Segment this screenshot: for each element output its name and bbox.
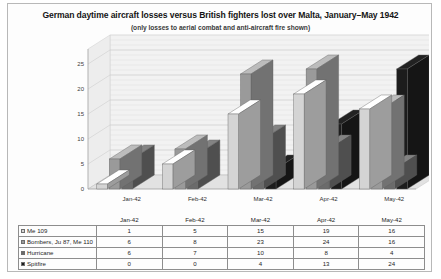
- x-tick-label-0: Jan-42: [123, 196, 142, 202]
- table-cell: 6: [97, 237, 163, 248]
- table-row-label-2: Hurricane: [19, 248, 97, 259]
- table-corner-cell: [19, 215, 97, 226]
- table-row: Hurricane671084: [19, 248, 425, 259]
- bar-Apr-42-Me-109: [294, 80, 327, 189]
- legend-swatch-icon: [21, 240, 25, 244]
- table-cell: 23: [228, 237, 294, 248]
- table-cell: 24: [359, 259, 425, 270]
- legend-swatch-icon: [21, 262, 25, 266]
- legend-swatch-icon: [21, 251, 25, 255]
- table-row-label-0: Me 109: [19, 226, 97, 237]
- y-tick-label-1: 5: [81, 161, 85, 167]
- table-header-row: Jan-42Feb-42Mar-42Apr-42May-42: [19, 215, 425, 226]
- table-header-0: Jan-42: [97, 215, 163, 226]
- chart-data-table: Jan-42Feb-42Mar-42Apr-42May-42 Me 109151…: [18, 215, 424, 270]
- bar-May-42-Me-109: [359, 95, 392, 189]
- table-row: Me 10915151916: [19, 226, 425, 237]
- y-tick-label-2: 10: [77, 136, 84, 142]
- data-table: Jan-42Feb-42Mar-42Apr-42May-42 Me 109151…: [18, 215, 425, 270]
- table-cell: 19: [293, 226, 359, 237]
- table-cell: 0: [162, 259, 228, 270]
- table-row-label-text: Bombers, Ju 87, Me 110: [27, 238, 93, 245]
- table-cell: 8: [162, 237, 228, 248]
- table-cell: 0: [97, 259, 163, 270]
- bar-Mar-42-Me-109: [228, 100, 261, 189]
- table-header-4: May-42: [359, 215, 425, 226]
- table-header-3: Apr-42: [293, 215, 359, 226]
- table-cell: 6: [97, 248, 163, 259]
- x-tick-label-4: May-42: [384, 196, 405, 202]
- table-cell: 13: [293, 259, 359, 270]
- table-cell: 4: [228, 259, 294, 270]
- table-body: Me 10915151916Bombers, Ju 87, Me 1106823…: [19, 226, 425, 270]
- y-tick-label-0: 0: [81, 186, 85, 192]
- table-row-label-text: Me 109: [27, 227, 47, 234]
- table-header-2: Mar-42: [228, 215, 294, 226]
- chart-title: German daytime aircraft losses versus Br…: [8, 10, 433, 20]
- table-cell: 16: [359, 237, 425, 248]
- x-tick-label-3: Apr-42: [320, 196, 339, 202]
- table-cell: 7: [162, 248, 228, 259]
- table-cell: 16: [359, 226, 425, 237]
- table-row-label-1: Bombers, Ju 87, Me 110: [19, 237, 97, 248]
- table-cell: 10: [228, 248, 294, 259]
- y-tick-label-5: 25: [77, 61, 84, 67]
- table-cell: 5: [162, 226, 228, 237]
- table-row: Spitfire0041324: [19, 259, 425, 270]
- y-tick-label-3: 15: [77, 111, 84, 117]
- legend-swatch-icon: [21, 229, 25, 233]
- table-row: Bombers, Ju 87, Me 11068232416: [19, 237, 425, 248]
- table-row-label-3: Spitfire: [19, 259, 97, 270]
- table-cell: 24: [293, 237, 359, 248]
- chart-plot-area: 0510152025 Jan-42Feb-42Mar-42Apr-42May-4…: [12, 33, 429, 213]
- table-cell: 8: [293, 248, 359, 259]
- table-cell: 15: [228, 226, 294, 237]
- table-row-label-text: Spitfire: [27, 260, 46, 267]
- table-header-1: Feb-42: [162, 215, 228, 226]
- x-tick-label-2: Mar-42: [253, 196, 273, 202]
- chart-subtitle: (only losses to aerial combat and anti-a…: [8, 24, 433, 31]
- table-cell: 1: [97, 226, 163, 237]
- x-tick-label-1: Feb-42: [188, 196, 208, 202]
- table-row-label-text: Hurricane: [27, 249, 53, 256]
- chart-x-axis: Jan-42Feb-42Mar-42Apr-42May-42: [123, 196, 405, 202]
- y-tick-label-4: 20: [77, 86, 84, 92]
- chart-frame: German daytime aircraft losses versus Br…: [7, 3, 432, 272]
- table-cell: 4: [359, 248, 425, 259]
